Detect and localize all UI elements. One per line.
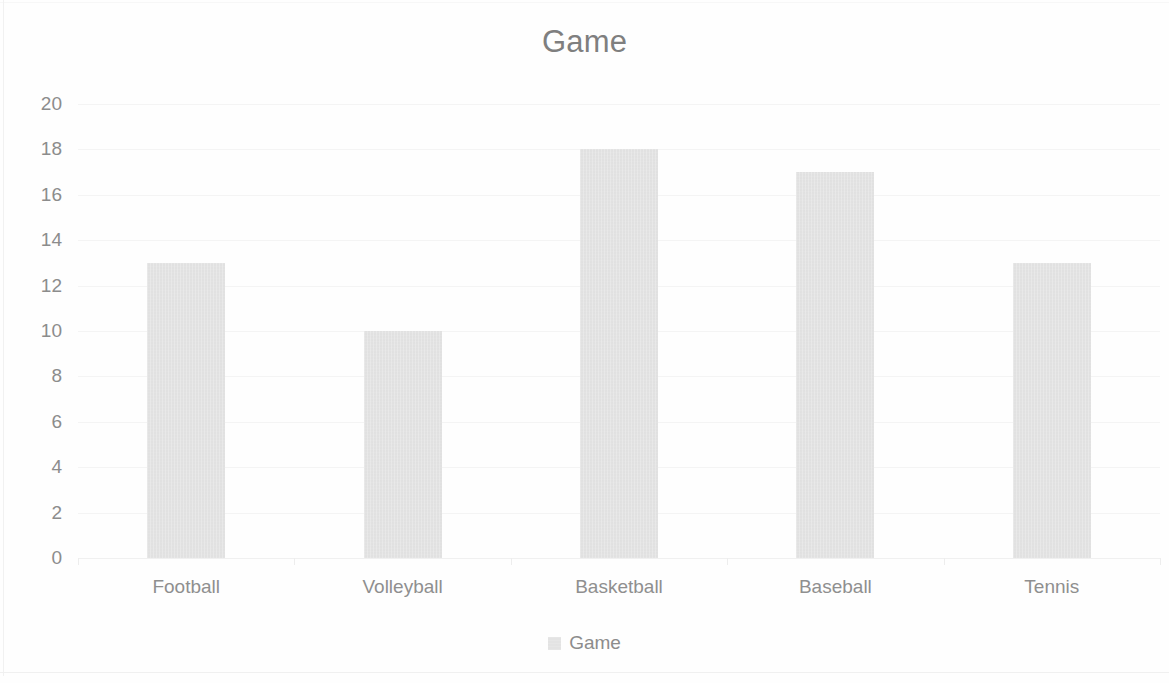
bar[interactable]: [796, 172, 874, 558]
y-axis-tick-label: 0: [0, 548, 62, 567]
x-axis-tick-mark: [944, 558, 945, 565]
x-axis-tick-label: Baseball: [727, 576, 943, 598]
x-axis-tick-label: Football: [78, 576, 294, 598]
y-axis-tick-label: 14: [0, 230, 62, 249]
y-axis-tick-label: 20: [0, 94, 62, 113]
x-axis-tick-mark: [294, 558, 295, 565]
bar-slot: [511, 104, 727, 558]
y-axis-tick-label: 12: [0, 276, 62, 295]
bar-slot: [78, 104, 294, 558]
legend-label: Game: [569, 632, 621, 654]
y-axis-tick-label: 2: [0, 503, 62, 522]
bar-chart: Game 20181614121086420 FootballVolleybal…: [0, 0, 1169, 683]
x-axis-tick-mark: [78, 558, 79, 565]
y-axis-tick-label: 10: [0, 321, 62, 340]
x-axis-tick-label: Volleyball: [294, 576, 510, 598]
legend-swatch-icon: [548, 637, 561, 650]
x-axis-tick-mark: [727, 558, 728, 565]
y-axis-tick-label: 4: [0, 457, 62, 476]
bar-slot: [294, 104, 510, 558]
x-axis-tick-mark: [511, 558, 512, 565]
bar-slot: [944, 104, 1160, 558]
bars-layer: [78, 104, 1160, 558]
bar[interactable]: [1013, 263, 1091, 558]
y-axis-tick-label: 6: [0, 412, 62, 431]
x-axis: FootballVolleyballBasketballBaseballTenn…: [78, 558, 1160, 604]
bar[interactable]: [147, 263, 225, 558]
y-axis-tick-label: 16: [0, 185, 62, 204]
y-axis-tick-label: 8: [0, 366, 62, 385]
chart-title: Game: [0, 22, 1169, 62]
y-axis: 20181614121086420: [0, 104, 62, 558]
x-axis-tick-label: Tennis: [944, 576, 1160, 598]
y-axis-tick-label: 18: [0, 139, 62, 158]
chart-frame-bottom-border: [0, 672, 1169, 673]
x-axis-tick-mark: [1160, 558, 1161, 565]
bar[interactable]: [364, 331, 442, 558]
x-axis-tick-label: Basketball: [511, 576, 727, 598]
bar[interactable]: [580, 149, 658, 558]
chart-frame-top-border: [0, 2, 1169, 3]
chart-legend: Game: [0, 632, 1169, 654]
bar-slot: [727, 104, 943, 558]
